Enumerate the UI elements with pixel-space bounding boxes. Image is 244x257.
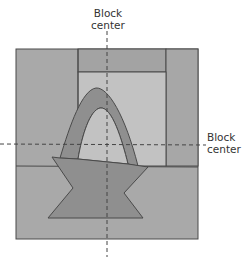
vertical-center-label: Block center — [88, 7, 128, 31]
top-band — [78, 49, 166, 72]
horizontal-center-label-line2: center — [207, 143, 244, 155]
horizontal-center-label-line1: Block — [207, 131, 244, 143]
right-column — [166, 49, 198, 166]
horizontal-center-label: Block center — [207, 131, 244, 155]
vertical-center-label-line2: center — [88, 19, 128, 31]
vertical-center-label-line1: Block — [88, 7, 128, 19]
basket-block-diagram — [0, 0, 244, 257]
